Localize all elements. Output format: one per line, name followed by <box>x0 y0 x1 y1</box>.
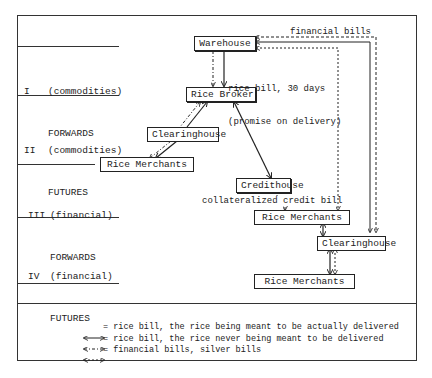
node-rice-merchants-forwards: Rice Merchants <box>254 210 350 225</box>
label-financial-bills: financial bills <box>290 27 371 38</box>
node-rice-merchants-commodities: Rice Merchants <box>100 157 194 172</box>
node-rice-merchants-futures: Rice Merchants <box>254 274 355 289</box>
label-rice-bill: rice bill, 30 days (promise on delivery) <box>228 62 341 139</box>
legend-item-financial-bills: = financial bills, silver bills <box>103 345 399 357</box>
node-warehouse: Warehouse <box>194 36 256 51</box>
node-clearinghouse-commodities: Clearinghouse <box>147 127 219 142</box>
label-collateralized-credit-bill: collateralized credit bill <box>202 196 342 207</box>
legend-item-rice-bill-delivered: = rice bill, the rice being meant to be … <box>103 322 399 334</box>
node-credithouse: Credithouse <box>236 178 291 193</box>
legend-item-rice-bill-not-delivered: = rice bill, the rice never being meant … <box>103 334 399 346</box>
node-clearinghouse-futures: Clearinghouse <box>317 236 386 251</box>
legend: = rice bill, the rice being meant to be … <box>103 322 399 357</box>
